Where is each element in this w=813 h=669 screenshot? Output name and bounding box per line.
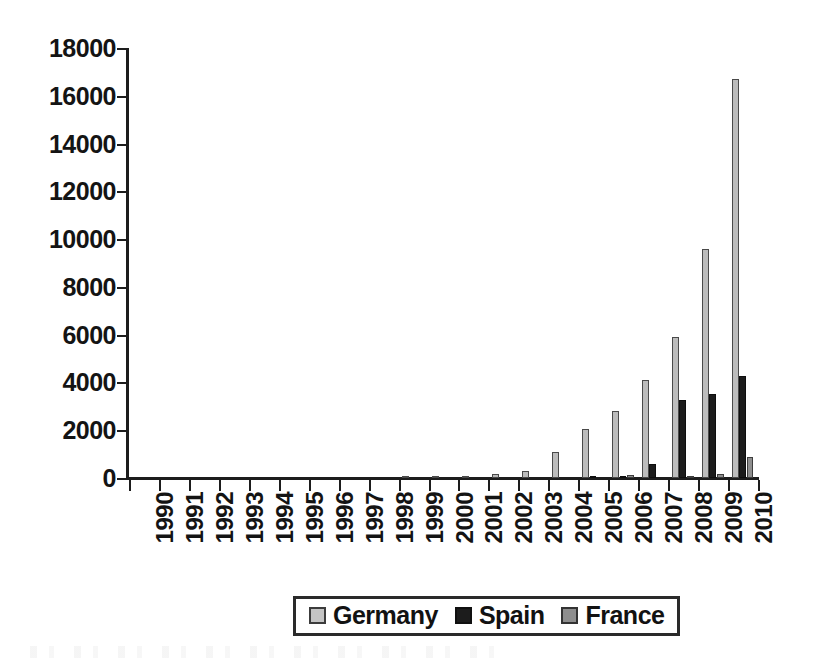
bar-spain-2007	[649, 464, 656, 478]
bar-france-2010	[747, 457, 754, 479]
category-group-1991	[159, 48, 189, 478]
y-tick-mark	[117, 430, 127, 432]
category-group-2009	[698, 48, 728, 478]
bar-chart: 0200040006000800010000120001400016000180…	[0, 0, 813, 669]
category-group-2007	[638, 48, 668, 478]
y-tick-label: 14000	[18, 131, 116, 156]
category-group-1999	[399, 48, 429, 478]
bar-germany-2000	[432, 476, 439, 478]
bar-germany-2007	[642, 380, 649, 478]
x-tick-label-2003: 2003	[542, 492, 566, 543]
bar-germany-2009	[702, 249, 709, 478]
legend-swatch-spain-icon	[455, 607, 472, 624]
bar-germany-2004	[552, 452, 559, 478]
y-tick-mark	[117, 48, 127, 50]
legend-label-spain: Spain	[479, 603, 545, 628]
y-axis-tick-labels: 0200040006000800010000120001400016000180…	[18, 30, 116, 490]
x-tick-label-2005: 2005	[602, 492, 626, 543]
legend-entry-spain[interactable]: Spain	[455, 603, 545, 628]
x-tick-mark	[698, 480, 700, 491]
category-group-1998	[369, 48, 399, 478]
x-tick-mark	[638, 480, 640, 491]
bar-germany-2010	[732, 79, 739, 478]
legend-label-france: France	[585, 603, 664, 628]
y-tick-label: 4000	[18, 370, 116, 395]
x-tick-mark	[429, 480, 431, 491]
bar-spain-2006	[620, 476, 627, 478]
bar-spain-2008	[679, 400, 686, 478]
x-tick-mark	[159, 480, 161, 491]
x-tick-mark	[279, 480, 281, 491]
y-tick-label: 6000	[18, 322, 116, 347]
x-tick-mark	[219, 480, 221, 491]
category-group-2005	[578, 48, 608, 478]
y-tick-mark	[117, 478, 127, 480]
y-tick-mark	[117, 335, 127, 337]
legend-swatch-germany-icon	[309, 607, 326, 624]
legend-label-germany: Germany	[333, 603, 438, 628]
x-tick-mark	[309, 480, 311, 491]
y-tick-label: 16000	[18, 83, 116, 108]
x-tick-mark	[189, 480, 191, 491]
x-tick-mark	[548, 480, 550, 491]
x-tick-label-1992: 1992	[213, 492, 237, 543]
x-tick-mark	[458, 480, 460, 491]
x-tick-mark	[518, 480, 520, 491]
y-tick-mark	[117, 287, 127, 289]
x-tick-label-2002: 2002	[512, 492, 536, 543]
category-group-2006	[608, 48, 638, 478]
x-tick-mark	[608, 480, 610, 491]
x-tick-mark	[578, 480, 580, 491]
bar-spain-2009	[709, 394, 716, 478]
y-tick-mark	[117, 96, 127, 98]
y-tick-label: 2000	[18, 418, 116, 443]
x-tick-mark	[339, 480, 341, 491]
category-group-2000	[429, 48, 459, 478]
bar-germany-2006	[612, 411, 619, 478]
bar-germany-2001	[462, 476, 469, 478]
bar-germany-2003	[522, 471, 529, 478]
category-group-1995	[279, 48, 309, 478]
x-tick-mark	[758, 480, 760, 491]
y-tick-mark	[117, 382, 127, 384]
y-tick-mark	[117, 191, 127, 193]
x-tick-label-2001: 2001	[482, 492, 506, 543]
category-group-1993	[219, 48, 249, 478]
chart-legend: Germany Spain France	[293, 596, 680, 636]
x-tick-mark	[488, 480, 490, 491]
y-tick-mark	[117, 239, 127, 241]
x-tick-mark	[369, 480, 371, 491]
bar-germany-2002	[492, 474, 499, 478]
bar-germany-1999	[402, 476, 409, 478]
category-group-2008	[668, 48, 698, 478]
scan-artifact	[30, 646, 500, 658]
bar-germany-2005	[582, 429, 589, 478]
category-group-2010	[728, 48, 758, 478]
x-tick-label-2009: 2009	[722, 492, 746, 543]
y-tick-label: 12000	[18, 179, 116, 204]
category-group-1994	[249, 48, 279, 478]
x-tick-label-2007: 2007	[662, 492, 686, 543]
legend-entry-germany[interactable]: Germany	[309, 603, 438, 628]
y-tick-label: 8000	[18, 274, 116, 299]
legend-entry-france[interactable]: France	[561, 603, 664, 628]
y-tick-label: 0	[18, 466, 116, 491]
x-tick-label-1999: 1999	[423, 492, 447, 543]
bar-france-2008	[687, 476, 694, 478]
x-tick-mark	[249, 480, 251, 491]
y-tick-label: 10000	[18, 227, 116, 252]
plot-area	[129, 48, 758, 478]
x-tick-label-1994: 1994	[273, 492, 297, 543]
x-tick-label-1995: 1995	[303, 492, 327, 543]
category-group-2004	[548, 48, 578, 478]
x-tick-label-2006: 2006	[632, 492, 656, 543]
y-tick-mark	[117, 144, 127, 146]
x-tick-label-1993: 1993	[243, 492, 267, 543]
category-group-1996	[309, 48, 339, 478]
x-axis-tick-labels: 1990199119921993199419951996199719981999…	[129, 492, 758, 584]
category-group-2001	[458, 48, 488, 478]
x-tick-label-2000: 2000	[453, 492, 477, 543]
category-group-2002	[488, 48, 518, 478]
x-tick-mark	[399, 480, 401, 491]
x-tick-label-2008: 2008	[692, 492, 716, 543]
